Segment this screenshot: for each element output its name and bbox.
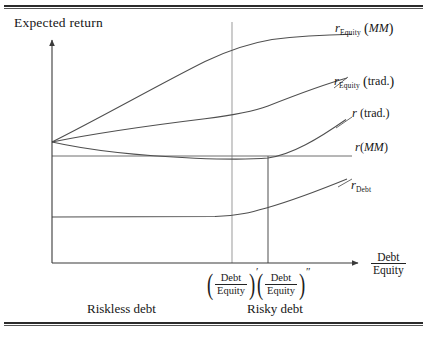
fraction-denominator: Equity [215,285,247,296]
curve-label-qualifier: MM [369,21,389,35]
x-axis-title: Debt Equity [371,251,406,277]
curve-label-symbol: r [352,106,357,120]
curve-label-r-mm: r(MM) [355,141,388,154]
paren-close: ) [299,273,305,295]
curve-label-qualifier: trad. [368,74,390,88]
curve-label-subscript: Equity [339,81,360,90]
curve-label-qualifier: trad. [364,106,386,120]
paren-close: ) [386,106,390,120]
bottom-border-rule [4,322,423,324]
figure-container: Expected return rEquity (MM) rEquity (tr… [0,0,427,337]
paren-close: ) [389,21,394,36]
curve-r-trad [52,120,346,160]
curve-label-subscript: Equity [340,28,361,37]
region-label-risky-debt: Risky debt [247,302,303,316]
prime-mark: ″ [306,265,311,277]
region-label-riskless-debt: Riskless debt [87,302,156,316]
debt-equity-fraction: DebtEquity [215,272,247,296]
paren-open: ( [207,273,213,295]
x-tick-label-first-threshold: (DebtEquity)′ [205,272,259,296]
paren-close: ) [389,74,394,89]
x-tick-label-second-threshold: (DebtEquity)″ [255,272,312,296]
curve-label-requity-mm: rEquity (MM) [335,22,393,37]
debt-equity-fraction: Debt Equity [371,251,406,277]
curve-label-requity-trad: rEquity (trad.) [334,75,394,90]
curve-label-r-debt: rDebt [351,179,371,194]
curve-r-debt [52,179,347,217]
leader-r-trad [336,117,352,128]
bottom-border-rule-thin [4,325,423,326]
debt-equity-fraction: DebtEquity [265,272,297,296]
fraction-denominator: Equity [265,285,297,296]
curve-label-qualifier: MM [364,140,384,154]
curve-requity-mm [52,34,352,142]
curve-requity-trad [52,78,347,142]
curve-label-subscript: Debt [356,185,371,194]
paren-close: ) [384,140,388,154]
y-axis-title: Expected return [14,16,103,30]
fraction-denominator: Equity [371,264,406,276]
fraction-numerator: Debt [215,272,247,284]
fraction-numerator: Debt [371,251,406,264]
paren-open: ( [257,273,263,295]
curve-label-r-trad: r (trad.) [352,107,390,120]
fraction-numerator: Debt [265,272,297,284]
